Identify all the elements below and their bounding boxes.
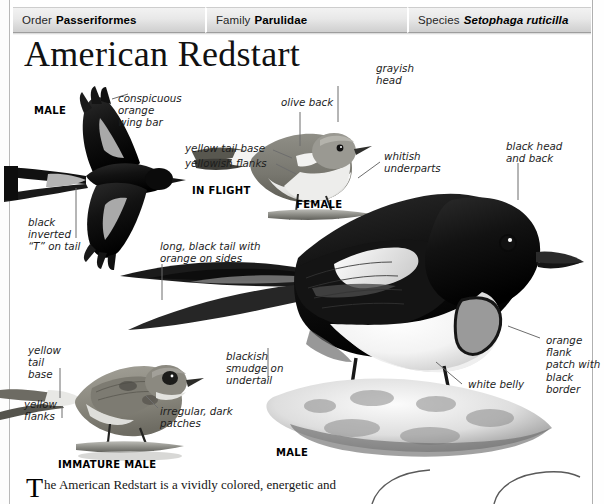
annotation-long-black-tail: long, black tail with orange on sides xyxy=(160,240,261,264)
caption-female: FEMALE xyxy=(296,199,342,210)
caption-male-perched: MALE xyxy=(276,447,308,458)
annotation-orange-flank-patch: orange flank patch with black border xyxy=(546,334,604,395)
drop-cap: T xyxy=(26,477,44,498)
annotation-olive-back: olive back xyxy=(281,96,333,108)
body-paragraph: The American Redstart is a vividly color… xyxy=(26,477,456,498)
field-guide-page: Order Passeriformes Family Parulidae Spe… xyxy=(0,0,604,504)
caption-immature-male: IMMATURE MALE xyxy=(58,459,156,470)
body-paragraph-text: he American Redstart is a vividly colore… xyxy=(44,477,336,492)
annotation-yellow-tail-base-female: yellow tail base xyxy=(185,142,265,154)
annotation-white-belly: white belly xyxy=(468,378,524,390)
illustration-layer xyxy=(0,0,604,504)
annotation-yellowish-flanks: yellowish flanks xyxy=(185,157,267,169)
annotation-wing-bar: conspicuous orange wing bar xyxy=(118,92,182,129)
annotation-whitish-underparts: whitish underparts xyxy=(384,150,441,174)
annotation-black-head-and-back: black head and back xyxy=(506,140,562,164)
annotation-irregular-patches: irregular, dark patches xyxy=(160,405,233,429)
annotation-blackish-smudge: blackish smudge on undertail xyxy=(226,350,283,387)
annotation-yellow-tail-base-immature: yellow tail base xyxy=(28,344,61,381)
caption-male-flight: MALE xyxy=(34,105,66,116)
caption-in-flight: IN FLIGHT xyxy=(192,185,251,196)
annotation-grayish-head: grayish head xyxy=(376,62,414,86)
annotation-inverted-t: black inverted “T” on tail xyxy=(28,216,80,253)
annotation-yellow-flanks: yellow flanks xyxy=(24,398,57,422)
